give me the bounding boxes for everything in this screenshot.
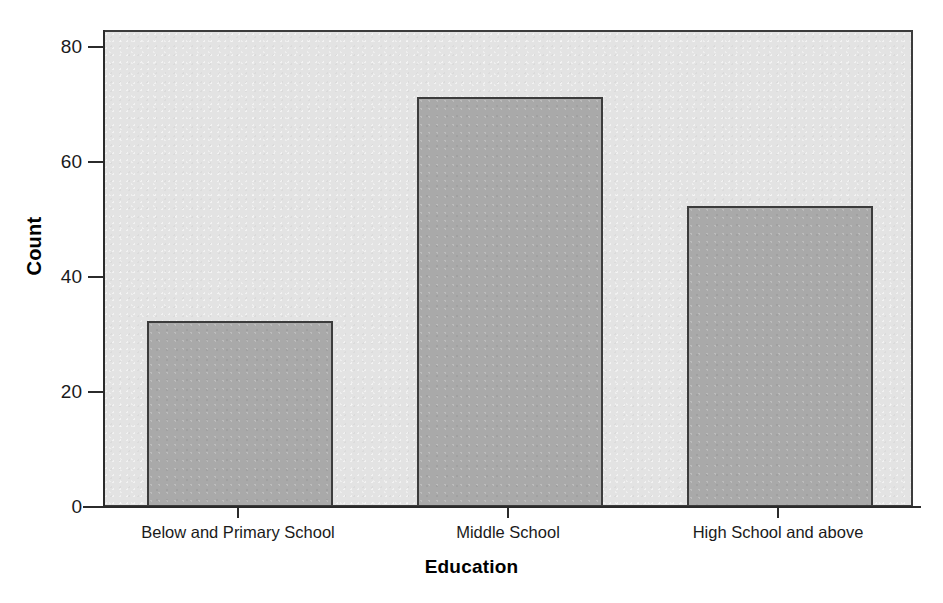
bar-1 <box>417 97 603 505</box>
x-tick-2 <box>777 507 779 518</box>
y-tick-0 <box>88 506 103 508</box>
y-tick-80 <box>88 46 103 48</box>
x-tick-label-0: Below and Primary School <box>88 523 388 543</box>
x-axis-line <box>83 506 921 508</box>
y-tick-label-80: 80 <box>30 37 82 56</box>
y-tick-60 <box>88 161 103 163</box>
x-tick-0 <box>237 507 239 518</box>
y-tick-label-0: 0 <box>30 497 82 516</box>
x-axis-title: Education <box>0 556 943 578</box>
y-tick-label-20: 20 <box>30 382 82 401</box>
x-tick-1 <box>507 507 509 518</box>
bars-layer <box>105 32 911 505</box>
y-tick-label-60: 60 <box>30 152 82 171</box>
x-tick-label-2: High School and above <box>628 523 928 543</box>
bar-2 <box>687 206 873 505</box>
bar-chart: 020406080 Below and Primary SchoolMiddle… <box>0 0 943 603</box>
x-tick-label-1: Middle School <box>358 523 658 543</box>
y-axis-title: Count <box>23 236 46 276</box>
plot-area <box>103 30 913 507</box>
bar-0 <box>147 321 333 505</box>
y-axis-line <box>103 30 105 507</box>
y-tick-20 <box>88 391 103 393</box>
y-tick-40 <box>88 276 103 278</box>
